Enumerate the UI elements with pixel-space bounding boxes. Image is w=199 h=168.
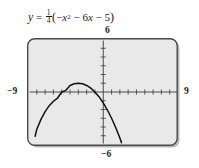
equation-lhs: y xyxy=(28,12,33,24)
y-min-label: −6 xyxy=(101,150,111,160)
term-constant: − 5 xyxy=(93,12,110,23)
graph-svg xyxy=(27,38,180,148)
term-linear-coefficient: − 6 xyxy=(71,12,88,23)
graph-viewport xyxy=(27,38,180,148)
y-max-label: 6 xyxy=(105,26,110,36)
coefficient-fraction: 1 4 xyxy=(46,9,52,26)
equation-equals-sign: = xyxy=(36,12,42,23)
x-min-label: −9 xyxy=(7,87,17,97)
close-paren: ) xyxy=(110,11,114,23)
fraction-denominator: 4 xyxy=(46,16,52,25)
x-max-label: 9 xyxy=(184,87,189,97)
equation-label: y = 1 4 ( − x 2 − 6 x − 5 ) xyxy=(28,9,114,26)
fraction-numerator: 1 xyxy=(46,9,52,17)
